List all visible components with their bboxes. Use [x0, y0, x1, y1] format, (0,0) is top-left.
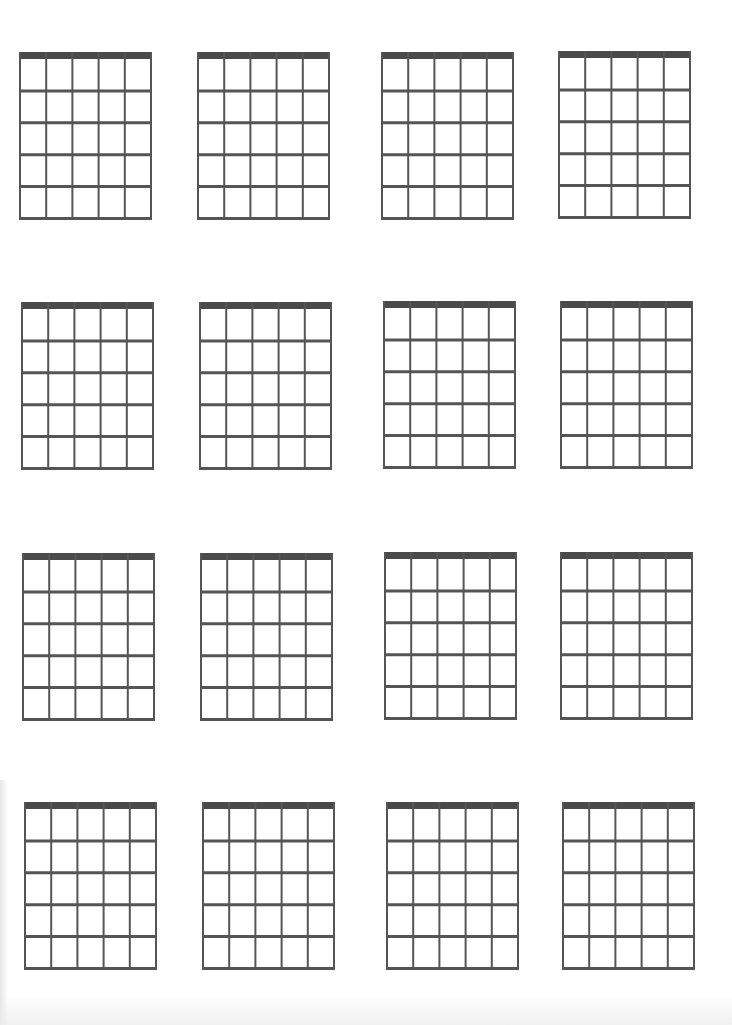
nut-bar	[202, 802, 335, 809]
nut-bar	[381, 52, 514, 59]
nut-bar	[560, 552, 693, 559]
scan-edge-shadow	[0, 780, 8, 1025]
chord-sheet-page	[0, 0, 732, 1025]
chord-diagram-r3-c1	[22, 553, 155, 721]
nut-bar	[562, 802, 695, 809]
nut-bar	[24, 802, 157, 809]
chord-diagram-r1-c4	[558, 51, 691, 219]
chord-diagram-r3-c2	[200, 553, 333, 721]
chord-diagram-r2-c1	[21, 302, 154, 470]
scan-bottom-shadow	[0, 995, 732, 1025]
chord-diagram-r4-c3	[386, 802, 519, 970]
nut-bar	[386, 802, 519, 809]
chord-diagram-r2-c2	[199, 302, 332, 470]
nut-bar	[384, 552, 517, 559]
chord-diagram-r3-c3	[384, 552, 517, 720]
nut-bar	[558, 51, 691, 58]
chord-diagram-r1-c2	[197, 52, 330, 220]
nut-bar	[200, 553, 333, 560]
chord-diagram-r1-c3	[381, 52, 514, 220]
chord-diagram-r1-c1	[19, 52, 152, 220]
chord-diagram-r4-c1	[24, 802, 157, 970]
nut-bar	[19, 52, 152, 59]
nut-bar	[383, 301, 516, 308]
chord-diagram-r4-c2	[202, 802, 335, 970]
chord-diagram-r3-c4	[560, 552, 693, 720]
nut-bar	[197, 52, 330, 59]
chord-diagram-r2-c3	[383, 301, 516, 469]
nut-bar	[560, 301, 693, 308]
nut-bar	[22, 553, 155, 560]
chord-diagram-r4-c4	[562, 802, 695, 970]
nut-bar	[21, 302, 154, 309]
nut-bar	[199, 302, 332, 309]
chord-diagram-r2-c4	[560, 301, 693, 469]
